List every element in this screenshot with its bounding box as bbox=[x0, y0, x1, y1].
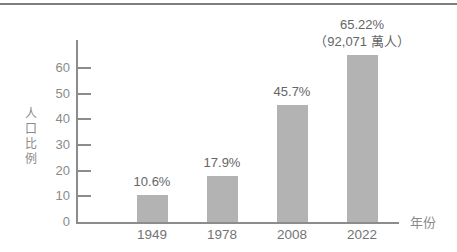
bar-value-label-2008: 45.7% bbox=[222, 83, 362, 100]
bar-sublabel-2022: （92,071 萬人） bbox=[292, 33, 432, 50]
x-tick-label-2022: 2022 bbox=[332, 227, 392, 243]
x-tick-label-1978: 1978 bbox=[192, 227, 252, 243]
y-tick-mark-60 bbox=[78, 67, 91, 69]
y-tick-mark-40 bbox=[78, 118, 91, 120]
bar-2022 bbox=[347, 55, 378, 222]
bar-value-label-2022: 65.22%（92,071 萬人） bbox=[292, 16, 432, 50]
y-tick-label-10: 10 bbox=[34, 188, 70, 204]
bar-value-label-1949: 10.6% bbox=[82, 173, 222, 190]
y-tick-label-60: 60 bbox=[34, 60, 70, 76]
y-tick-label-50: 50 bbox=[34, 86, 70, 102]
population-chart-screenshot: 人口比例 0102030405060 10.6%194917.9%197845.… bbox=[0, 0, 457, 252]
bar-1949 bbox=[137, 195, 168, 222]
y-tick-label-40: 40 bbox=[34, 111, 70, 127]
y-tick-label-20: 20 bbox=[34, 163, 70, 179]
x-axis-title: 年份 bbox=[410, 214, 452, 231]
y-tick-mark-20 bbox=[78, 170, 91, 172]
x-tick-label-1949: 1949 bbox=[122, 227, 182, 243]
x-axis-line bbox=[76, 222, 399, 224]
population-bar-chart: 人口比例 0102030405060 10.6%194917.9%197845.… bbox=[0, 0, 457, 252]
y-tick-mark-50 bbox=[78, 93, 91, 95]
y-tick-label-0: 0 bbox=[34, 214, 70, 230]
y-tick-mark-30 bbox=[78, 144, 91, 146]
bar-value-label-1978: 17.9% bbox=[152, 154, 292, 171]
y-tick-label-30: 30 bbox=[34, 137, 70, 153]
y-tick-mark-10 bbox=[78, 195, 91, 197]
x-tick-label-2008: 2008 bbox=[262, 227, 322, 243]
